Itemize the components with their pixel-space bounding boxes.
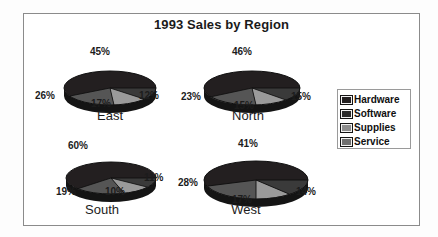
pie-panel-west: 41% 14% 17% 28% West (176, 136, 316, 232)
chart-legend: Hardware Software Supplies Service (337, 89, 411, 149)
pie-slice-label: 28% (178, 177, 198, 188)
pie-slice-label: 46% (232, 46, 252, 57)
pie-slice-label: 19% (56, 186, 76, 197)
pie-panel-title-north: North (178, 108, 318, 123)
pie-slice-label: 26% (35, 90, 55, 101)
pie-slice-label: 41% (238, 138, 258, 149)
pie-panel-north: 46% 15% 15% 23% North (178, 46, 318, 142)
chart-canvas: 1993 Sales by Region 45% 12% 17% (0, 0, 438, 237)
pie-slice-label: 10% (105, 186, 125, 197)
pie-panel-title-west: West (176, 202, 316, 217)
pie-slice-label: 60% (68, 140, 88, 151)
legend-swatch-icon (341, 138, 352, 146)
legend-label: Supplies (354, 123, 396, 133)
pie-panel-south: 60% 11% 10% 19% South (32, 140, 172, 236)
legend-item-hardware: Hardware (341, 93, 410, 107)
legend-label: Software (354, 109, 396, 119)
pie-slice-label: 14% (296, 186, 316, 197)
legend-item-supplies: Supplies (341, 121, 410, 135)
legend-swatch-icon (341, 124, 352, 132)
legend-label: Hardware (354, 95, 400, 105)
legend-swatch-icon (341, 96, 352, 104)
pie-panel-title-east: East (40, 108, 180, 123)
legend-label: Service (354, 137, 390, 147)
chart-title: 1993 Sales by Region (23, 17, 420, 32)
legend-item-software: Software (341, 107, 410, 121)
pie-slice-label: 23% (181, 91, 201, 102)
pie-slice-label: 11% (144, 172, 163, 183)
pie-slice-label: 15% (291, 91, 311, 102)
pie-slice-label: 12% (139, 90, 159, 101)
pie-panel-title-south: South (32, 202, 172, 217)
pie-slice-label: 45% (90, 46, 110, 57)
legend-item-service: Service (341, 135, 410, 149)
pie-panel-east: 45% 12% 17% 26% East (40, 46, 180, 142)
legend-swatch-icon (341, 110, 352, 118)
